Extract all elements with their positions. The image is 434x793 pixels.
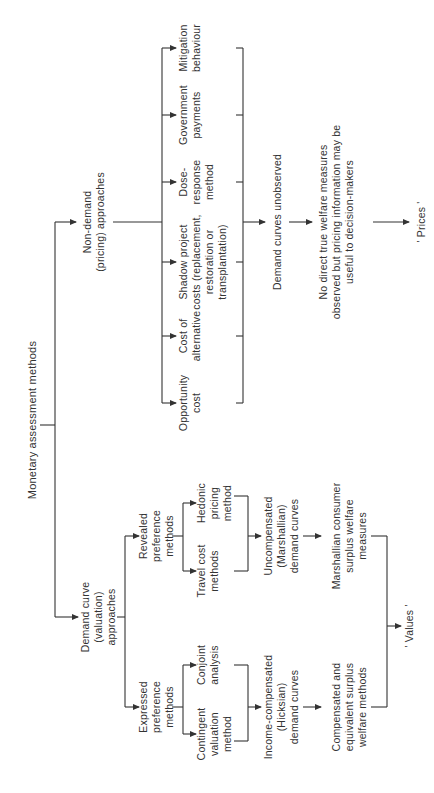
contingent-node: Contingent valuation method	[195, 708, 234, 761]
prices-node: ' Prices '	[415, 201, 428, 242]
shadow-project-node: Shadow project costs (replacement, resto…	[177, 214, 229, 309]
values-node: ' Values '	[403, 604, 416, 647]
cost-alternative-node: Cost of alternative	[177, 311, 203, 362]
revealed-node: Revealed preference methods	[137, 510, 176, 562]
expressed-node: Expressed preference methods	[137, 681, 176, 733]
root-node: Monetary assessment methods	[26, 341, 39, 499]
no-direct-node: No direct true welfare measures observed…	[317, 125, 356, 320]
diagram-canvas: Monetary assessment methods Non-demand (…	[0, 0, 434, 793]
government-node: Government payments	[177, 85, 203, 145]
dose-response-node: Dose- response method	[177, 160, 216, 205]
non-demand-node: Non-demand (pricing) approaches	[81, 172, 107, 272]
travel-cost-node: Travel cost methods	[195, 544, 221, 597]
conjoint-node: Conjoint analysis	[195, 645, 221, 685]
compensated-surplus-node: Compensated and equivalent surplus welfa…	[330, 663, 369, 752]
marshallian-surplus-node: Marshallian consumer surplus welfare mea…	[330, 483, 369, 590]
demand-unobserved-node: Demand curves unobserved	[271, 154, 284, 290]
mitigation-node: Mitigation behaviour	[177, 24, 203, 72]
hedonic-node: Hedonic pricing method	[195, 483, 234, 523]
uncompensated-node: Uncompensated (Marshallian) demand curve…	[262, 496, 301, 575]
opportunity-cost-node: Opportunity cost	[177, 375, 203, 431]
demand-curve-node: Demand curve (valuation) approaches	[79, 582, 118, 653]
income-compensated-node: Income-compensated (Hicksian) demand cur…	[262, 655, 301, 760]
